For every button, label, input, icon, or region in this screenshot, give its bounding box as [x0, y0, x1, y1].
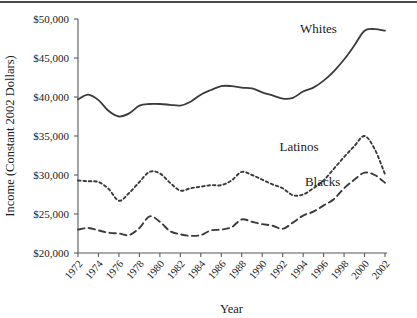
- x-tick-label: 1972: [63, 258, 85, 281]
- x-tick-label: 1994: [288, 258, 310, 282]
- x-tick-label: 1982: [165, 258, 187, 281]
- x-axis-tick-marks: [78, 253, 385, 257]
- x-tick-label: 1980: [144, 258, 166, 281]
- y-tick-label: $35,000: [33, 130, 69, 142]
- x-tick-label: 1998: [329, 258, 351, 281]
- x-tick-label: 1990: [247, 258, 269, 281]
- y-tick-label: $40,000: [33, 91, 69, 103]
- chart-svg: $50,000$45,000$40,000$35,000$30,000$25,0…: [0, 0, 417, 318]
- x-tick-label: 1986: [206, 258, 228, 281]
- y-tick-label: $20,000: [33, 247, 69, 259]
- x-axis-tick-labels: 1972197419761978198019821984198619881990…: [63, 258, 392, 282]
- x-tick-label: 1988: [226, 258, 248, 281]
- series-inline-labels: WhitesLatinosBlacks: [280, 21, 341, 189]
- y-axis-title: Income (Constant 2002 Dollars): [3, 55, 17, 216]
- chart-figure: $50,000$45,000$40,000$35,000$30,000$25,0…: [0, 0, 417, 318]
- y-axis-tick-marks: [74, 19, 78, 253]
- x-tick-label: 1978: [124, 258, 146, 281]
- series-line-whites: [78, 29, 385, 117]
- y-tick-label: $30,000: [33, 169, 69, 181]
- x-tick-label: 1996: [308, 258, 330, 281]
- x-tick-label: 1976: [104, 258, 126, 281]
- x-tick-label: 2000: [349, 258, 371, 281]
- series-label-blacks: Blacks: [305, 174, 340, 189]
- series-label-whites: Whites: [300, 21, 337, 36]
- series-label-latinos: Latinos: [280, 139, 319, 154]
- data-series-group: [78, 29, 385, 236]
- series-line-latinos: [78, 136, 385, 201]
- x-tick-label: 1984: [185, 258, 207, 282]
- x-tick-label: 2002: [370, 258, 392, 281]
- x-axis-title: Year: [220, 302, 244, 316]
- y-tick-label: $25,000: [33, 208, 69, 220]
- x-tick-label: 1974: [83, 258, 105, 282]
- x-tick-label: 1992: [267, 258, 289, 281]
- y-tick-label: $50,000: [33, 13, 69, 25]
- y-tick-label: $45,000: [33, 52, 69, 64]
- y-axis-tick-labels: $50,000$45,000$40,000$35,000$30,000$25,0…: [33, 13, 69, 259]
